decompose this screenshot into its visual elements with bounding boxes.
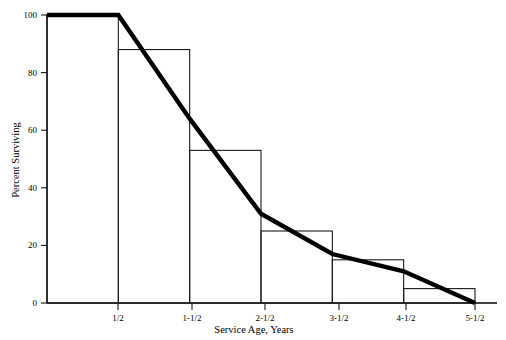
survival-chart: 0 20 40 60 80 100 1/2 1-1/2 2-1/2 3-1/2 …	[0, 0, 506, 340]
histogram-bars	[47, 15, 475, 303]
x-tick-label-4: 3-1/2	[330, 313, 349, 323]
y-axis-title: Percent Surviving	[10, 121, 21, 197]
chart-canvas: 0 20 40 60 80 100 1/2 1-1/2 2-1/2 3-1/2 …	[0, 0, 506, 340]
histogram-bar	[190, 150, 261, 303]
histogram-bar	[404, 289, 475, 303]
histogram-bar	[47, 15, 118, 303]
y-tick-label-100: 100	[24, 10, 38, 20]
histogram-bar	[118, 50, 189, 303]
y-tick-label-60: 60	[28, 125, 38, 135]
x-axis-title: Service Age, Years	[214, 324, 293, 335]
histogram-bar	[261, 231, 332, 303]
histogram-bar	[332, 260, 403, 303]
x-tick-label-2: 1-1/2	[183, 313, 202, 323]
y-tick-label-40: 40	[28, 183, 38, 193]
x-tick-label-6: 5-1/2	[466, 313, 485, 323]
x-tick-label-5: 4-1/2	[397, 313, 416, 323]
y-tick-label-0: 0	[33, 298, 38, 308]
x-tick-label-1: 1/2	[112, 313, 124, 323]
x-tick-label-3: 2-1/2	[256, 313, 275, 323]
y-tick-label-80: 80	[28, 68, 38, 78]
y-tick-label-20: 20	[28, 240, 38, 250]
